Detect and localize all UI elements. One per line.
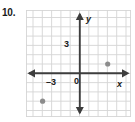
coordinate-plane: 3 –3 0 y x — [26, 10, 131, 117]
worksheet-problem-figure: 10. — [0, 0, 135, 122]
x-axis-arrow-left — [28, 69, 36, 77]
origin-label: 0 — [74, 77, 79, 86]
coordinate-plane-svg — [26, 10, 131, 117]
data-point — [40, 99, 45, 104]
y-axis-tick-label-3: 3 — [64, 40, 69, 49]
y-axis-name-label: y — [86, 15, 91, 24]
x-axis-tick-label-neg3: –3 — [46, 78, 56, 87]
data-point — [105, 61, 110, 66]
y-axis-arrow-up — [76, 13, 84, 21]
axis-lines — [29, 14, 127, 113]
x-axis-name-label: x — [117, 80, 122, 89]
problem-number: 10. — [2, 8, 15, 18]
